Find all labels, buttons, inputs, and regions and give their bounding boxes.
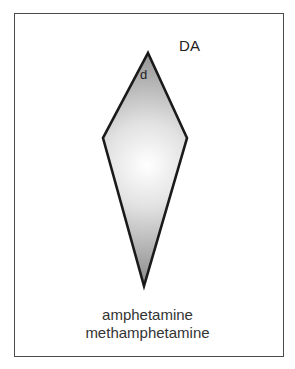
d-label: d xyxy=(140,67,147,82)
da-label: DA xyxy=(179,37,200,54)
caption-methamphetamine: methamphetamine xyxy=(0,324,295,342)
caption-amphetamine: amphetamine xyxy=(0,306,295,324)
